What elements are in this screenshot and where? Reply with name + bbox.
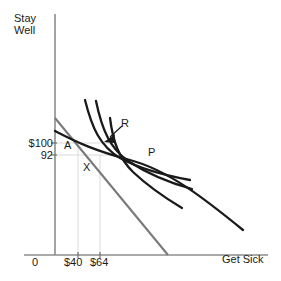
chart-figure: Stay Well Get Sick $100 92 0 $40 $64 A X… [0, 0, 281, 281]
point-label-x: X [83, 161, 90, 173]
point-label-r: R [121, 117, 129, 129]
point-label-p: P [148, 146, 155, 158]
x-tick-label-40: $40 [64, 256, 82, 268]
tick-marks [51, 143, 100, 258]
gridlines [55, 143, 112, 255]
indifference-curve-3 [96, 101, 192, 189]
x-tick-label-64: $64 [90, 256, 108, 268]
y-tick-label-92: 92 [41, 149, 53, 161]
x-axis-title: Get Sick [222, 253, 264, 265]
point-label-a: A [64, 139, 71, 151]
y-tick-label-100: $100 [29, 137, 53, 149]
y-axis-title: Stay Well [14, 12, 36, 36]
indifference-curve-4 [110, 118, 182, 208]
x-tick-label-0: 0 [32, 256, 38, 268]
